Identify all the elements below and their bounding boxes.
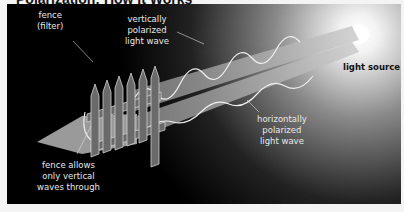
- vertical-wave-label: vertically polarized light wave: [125, 14, 169, 47]
- horizontal-wave-label: horizontally polarized light wave: [257, 114, 307, 147]
- fence-label: fence (filter): [37, 10, 63, 32]
- diagram-panel: fence (filter) vertically polarized ligh…: [7, 4, 401, 204]
- fence-allows-label: fence allows only vertical waves through: [37, 160, 100, 193]
- light-source-label: light source: [343, 62, 400, 73]
